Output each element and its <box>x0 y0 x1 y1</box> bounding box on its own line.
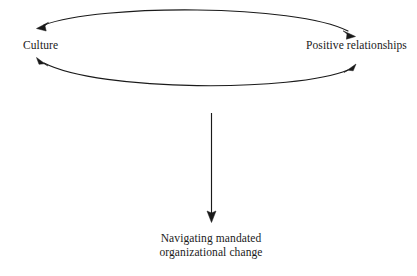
node-label-outcome-line-1: Navigating mandated <box>131 232 291 246</box>
bottom-arc-connector <box>37 58 357 86</box>
top-arc-connector <box>37 10 356 39</box>
node-label-culture: Culture <box>23 39 58 53</box>
bottom-arc-right-arrowhead <box>344 64 356 73</box>
vertical-arrow-connector <box>207 113 216 223</box>
node-label-outcome-line-2: organizational change <box>131 246 291 260</box>
top-arc-path <box>44 10 348 31</box>
bottom-arc-path <box>44 63 348 86</box>
node-label-outcome: Navigating mandated organizational chang… <box>131 232 291 259</box>
diagram-canvas: Culture Positive relationships Navigatin… <box>0 0 417 276</box>
bottom-arc-left-arrowhead <box>37 58 49 67</box>
node-label-positive-relationships: Positive relationships <box>306 39 407 53</box>
top-arc-right-arrowhead <box>343 31 356 39</box>
top-arc-left-arrowhead <box>37 22 49 31</box>
